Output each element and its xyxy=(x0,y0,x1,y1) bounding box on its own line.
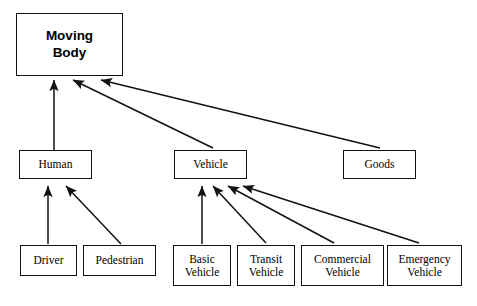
node-label-transit-vehicle: Transit Vehicle xyxy=(247,253,285,279)
node-basic-vehicle[interactable]: Basic Vehicle xyxy=(173,245,231,286)
edge-commercial-vehicle-to-vehicle xyxy=(228,186,334,243)
node-emergency-vehicle[interactable]: Emergency Vehicle xyxy=(387,245,462,286)
edge-transit-vehicle-to-vehicle xyxy=(213,186,266,243)
node-goods[interactable]: Goods xyxy=(343,150,416,179)
hierarchy-diagram: Moving Body Human Vehicle Goods Driver P… xyxy=(0,0,477,306)
edge-pedestrian-to-human xyxy=(66,186,121,244)
edge-emergency-vehicle-to-vehicle xyxy=(243,186,419,243)
node-label-moving-body: Moving Body xyxy=(44,28,95,60)
node-label-pedestrian: Pedestrian xyxy=(94,254,146,267)
node-label-human: Human xyxy=(37,158,75,171)
node-human[interactable]: Human xyxy=(19,150,92,179)
node-vehicle[interactable]: Vehicle xyxy=(174,150,247,179)
node-label-goods: Goods xyxy=(362,158,396,171)
node-moving-body[interactable]: Moving Body xyxy=(16,13,123,76)
edge-goods-to-moving-body xyxy=(101,80,380,148)
node-label-emergency-vehicle: Emergency Vehicle xyxy=(396,253,452,279)
node-label-vehicle: Vehicle xyxy=(191,158,229,171)
node-label-driver: Driver xyxy=(31,254,65,267)
node-transit-vehicle[interactable]: Transit Vehicle xyxy=(237,245,295,286)
node-label-basic-vehicle: Basic Vehicle xyxy=(183,253,221,279)
edge-vehicle-to-moving-body xyxy=(73,80,213,148)
node-pedestrian[interactable]: Pedestrian xyxy=(83,245,156,276)
node-commercial-vehicle[interactable]: Commercial Vehicle xyxy=(301,245,384,286)
node-driver[interactable]: Driver xyxy=(20,245,77,276)
node-label-commercial-vehicle: Commercial Vehicle xyxy=(312,253,373,279)
